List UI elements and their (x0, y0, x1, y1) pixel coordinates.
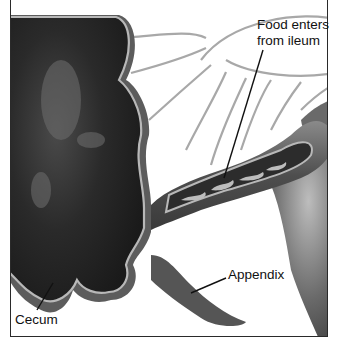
label-cecum: Cecum (15, 312, 58, 328)
cecum-illustration (11, 0, 328, 337)
label-food-line2: from ileum (257, 33, 329, 49)
appendix (151, 255, 246, 326)
diagram-frame (10, 0, 328, 337)
cecum-lumen (11, 17, 144, 301)
label-food-line1: Food enters (257, 17, 329, 33)
label-appendix: Appendix (228, 267, 284, 283)
label-food-enters-from-ileum: Food enters from ileum (257, 17, 329, 49)
